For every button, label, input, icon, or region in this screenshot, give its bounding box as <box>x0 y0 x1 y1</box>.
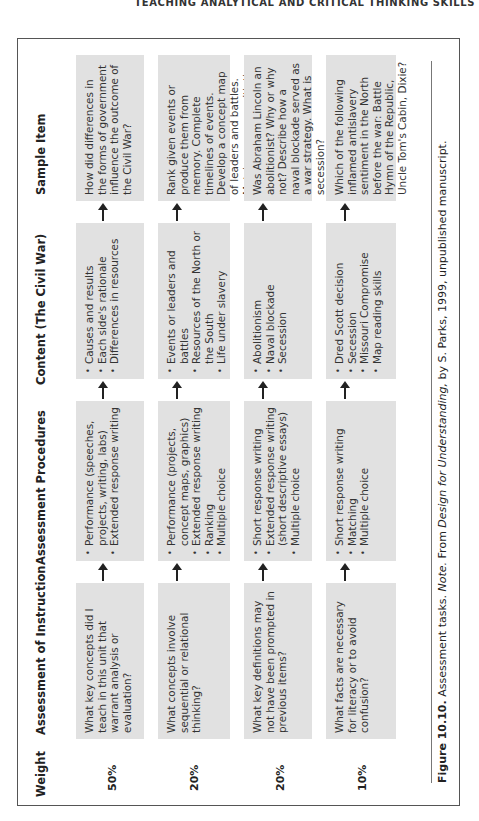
content-item: Secession <box>346 229 359 373</box>
procedure-item: Multiple choice <box>215 407 228 555</box>
arrow-right-icon <box>172 203 182 221</box>
caption-text: From <box>436 528 449 562</box>
procedure-item: Ranking <box>203 407 216 555</box>
weight-cell: 20% <box>188 765 201 791</box>
procedure-item: Short response writing <box>251 407 264 555</box>
arrow-right-icon <box>340 381 350 399</box>
table-header-row: Weight Assessment of Instruction Assessm… <box>34 39 60 805</box>
content-item: Abolitionism <box>251 229 264 373</box>
arrow-right-icon <box>98 203 108 221</box>
header-assessment-procedures: Assessment Procedures <box>34 410 48 565</box>
content-item: Missouri Compromise <box>358 229 371 373</box>
header-sample-item: Sample Item <box>34 113 48 195</box>
procedure-item: Performance (speeches, projects, writing… <box>83 407 108 555</box>
sample-item-cell: Which of the following inflamed antislav… <box>326 55 396 201</box>
procedure-item: Short response writing <box>333 407 346 555</box>
content-item: Each side's rationale <box>96 229 109 373</box>
content-item: Differences in resources <box>108 229 121 373</box>
arrow-right-icon <box>258 381 268 399</box>
arrow-right-icon <box>98 563 108 581</box>
procedures-cell: Performance (speeches, projects, writing… <box>76 401 144 561</box>
procedure-item: Multiple choice <box>358 407 371 555</box>
procedure-item: Matching <box>346 407 359 555</box>
procedure-item: Multiple choice <box>289 407 302 555</box>
procedures-cell: Short response writing Extended response… <box>244 401 312 561</box>
content-item: Map reading skills <box>371 229 384 373</box>
procedure-item: Extended response writing <box>190 407 203 555</box>
sample-item-cell: How did differences in the forms of gove… <box>76 55 144 201</box>
arrow-right-icon <box>258 203 268 221</box>
content-cell: Dred Scott decision Secession Missouri C… <box>326 223 396 379</box>
content-item: Events or leaders and battles <box>165 229 190 373</box>
caption-text: Assessment tasks. <box>436 591 449 700</box>
figure-label: Figure 10.10. <box>436 700 449 783</box>
procedure-item: Extended response writing (short descrip… <box>264 407 289 555</box>
header-weight: Weight <box>34 751 48 797</box>
note-label: Note. <box>436 562 449 592</box>
rotated-page: Weight Assessment of Instruction Assessm… <box>0 0 479 821</box>
weight-cell: 20% <box>274 765 287 791</box>
arrow-right-icon <box>258 563 268 581</box>
content-cell: Causes and results Each side's rationale… <box>76 223 144 379</box>
caption-divider <box>431 61 432 783</box>
content-item: Dred Scott decision <box>333 229 346 373</box>
instruction-cell: What concepts involve sequential or rela… <box>158 583 230 739</box>
content-item: Life under slavery <box>215 229 228 373</box>
procedure-item: Extended response writing <box>108 407 121 555</box>
arrow-right-icon <box>340 203 350 221</box>
figure-frame: Weight Assessment of Instruction Assessm… <box>17 38 460 806</box>
weight-cell: 50% <box>106 765 119 791</box>
content-item: Resources of the North or the South <box>190 229 215 373</box>
header-assessment-of-instruction: Assessment of Instruction <box>34 566 48 735</box>
arrow-right-icon <box>98 381 108 399</box>
caption-text: by S. Parks, 1999, unpublished manuscrip… <box>436 141 449 383</box>
arrow-right-icon <box>340 563 350 581</box>
content-cell: Abolitionism Naval blockade Secession <box>244 223 312 379</box>
instruction-cell: What facts are necessary for literacy or… <box>326 583 396 739</box>
book-title: Design for Understanding, <box>436 383 449 528</box>
procedure-item: Performance (projects, concept maps, gra… <box>165 407 190 555</box>
instruction-cell: What key concepts did I teach in this un… <box>76 583 144 739</box>
sample-item-cell: Was Abraham Lincoln an abolitionist? Why… <box>244 55 312 201</box>
sample-item-cell: Rank given events or produce them from m… <box>158 55 230 201</box>
arrow-right-icon <box>172 381 182 399</box>
content-item: Causes and results <box>83 229 96 373</box>
figure-caption: Figure 10.10. Assessment tasks. Note. Fr… <box>436 141 449 783</box>
arrow-right-icon <box>172 563 182 581</box>
content-cell: Events or leaders and battles Resources … <box>158 223 230 379</box>
content-item: Naval blockade <box>264 229 277 373</box>
procedures-cell: Short response writing Matching Multiple… <box>326 401 396 561</box>
weight-cell: 10% <box>356 765 369 791</box>
content-item: Secession <box>276 229 289 373</box>
header-content: Content (The Civil War) <box>34 234 48 385</box>
procedures-cell: Performance (projects, concept maps, gra… <box>158 401 230 561</box>
instruction-cell: What key definitions may not have been p… <box>244 583 312 739</box>
